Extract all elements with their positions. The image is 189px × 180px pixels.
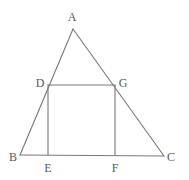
geometry-figure: A B C D E F G xyxy=(0,0,189,180)
side-AC xyxy=(73,29,164,156)
vertex-label-G: G xyxy=(119,77,128,89)
figure-canvas xyxy=(0,0,189,180)
segments-group xyxy=(20,29,164,156)
base-BC xyxy=(20,155,164,156)
vertex-label-C: C xyxy=(167,151,175,163)
side-AB xyxy=(20,29,73,155)
vertex-label-D: D xyxy=(36,77,45,89)
vertex-label-E: E xyxy=(44,162,51,174)
vertex-label-F: F xyxy=(112,162,119,174)
vertex-label-B: B xyxy=(9,151,17,163)
vertex-label-A: A xyxy=(68,11,77,23)
